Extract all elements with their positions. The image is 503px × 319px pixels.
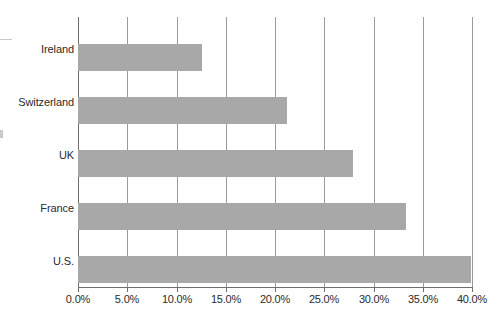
x-tick-label-3: 15.0% — [211, 293, 241, 305]
x-tick-label-6: 30.0% — [359, 293, 389, 305]
gridline-40.0% — [472, 17, 473, 287]
x-tick-label-2: 10.0% — [162, 293, 192, 305]
x-tick-label-5: 25.0% — [309, 293, 339, 305]
tickmark-40.0% — [472, 287, 473, 292]
bar-uk — [78, 150, 353, 177]
x-tick-label-8: 40.0% — [457, 293, 487, 305]
tickmark-15.0% — [226, 287, 227, 292]
bar-ireland — [78, 44, 202, 71]
tickmark-25.0% — [324, 287, 325, 292]
tickmark-35.0% — [423, 287, 424, 292]
y-axis-label-3: France — [0, 203, 74, 214]
bar-switzerland — [78, 97, 287, 124]
tickmark-20.0% — [275, 287, 276, 292]
bar-france — [78, 203, 406, 230]
x-tick-label-7: 35.0% — [408, 293, 438, 305]
tickmark-30.0% — [374, 287, 375, 292]
plot-area — [78, 17, 472, 287]
bar-u-s — [78, 256, 471, 283]
x-tick-label-0: 0.0% — [66, 293, 90, 305]
x-tick-label-1: 5.0% — [115, 293, 139, 305]
tickmark-10.0% — [177, 287, 178, 292]
y-axis-label-2: UK — [0, 150, 74, 161]
tickmark-5.0% — [127, 287, 128, 292]
y-axis-label-1: Switzerland — [0, 97, 74, 108]
y-axis-label-4: U.S. — [0, 256, 74, 267]
tickmark-0.0% — [78, 287, 79, 292]
x-tick-label-4: 20.0% — [260, 293, 290, 305]
y-axis-labels: Ireland Switzerland UK France U.S. — [0, 0, 74, 319]
bar-chart: Ireland Switzerland UK France U.S. 0.0%5… — [0, 0, 503, 319]
y-axis-label-0: Ireland — [0, 44, 74, 55]
